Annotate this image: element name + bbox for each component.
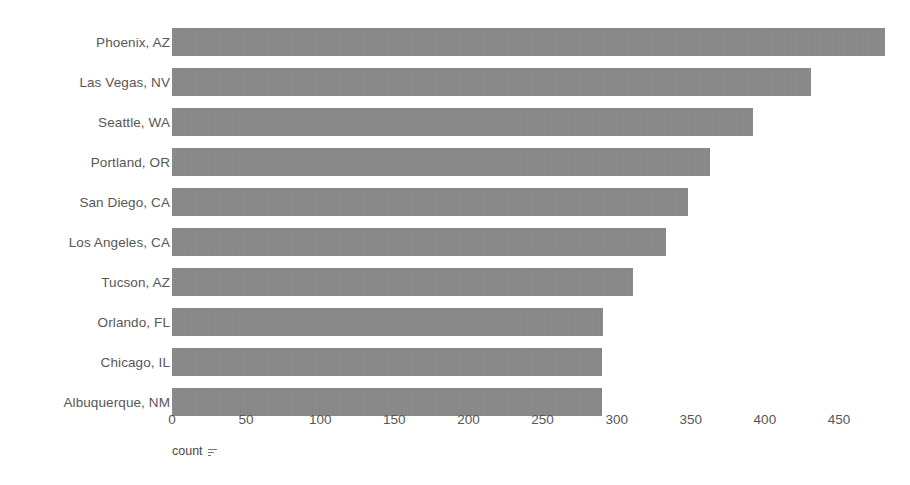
bar[interactable] [172, 28, 885, 56]
bar[interactable] [172, 228, 666, 256]
bar[interactable] [172, 108, 753, 136]
bar-row: Chicago, IL [0, 342, 910, 382]
category-label: Phoenix, AZ [0, 35, 170, 50]
x-axis-tick-label: 0 [168, 412, 176, 427]
bar-row: Los Angeles, CA [0, 222, 910, 262]
category-label: Chicago, IL [0, 355, 170, 370]
bar[interactable] [172, 148, 710, 176]
category-label: Tucson, AZ [0, 275, 170, 290]
x-axis-tick-label: 400 [754, 412, 777, 427]
bar-row: Seattle, WA [0, 102, 910, 142]
x-axis-tick-label: 100 [309, 412, 332, 427]
bar[interactable] [172, 348, 602, 376]
x-axis: 050100150200250300350400450 [0, 412, 910, 442]
bar[interactable] [172, 308, 603, 336]
category-label: Albuquerque, NM [0, 395, 170, 410]
bar[interactable] [172, 268, 633, 296]
x-axis-tick-label: 350 [680, 412, 703, 427]
category-label: Portland, OR [0, 155, 170, 170]
bar-row: Orlando, FL [0, 302, 910, 342]
sort-descending-icon [208, 448, 217, 457]
category-label: Las Vegas, NV [0, 75, 170, 90]
category-label: San Diego, CA [0, 195, 170, 210]
bar-row: San Diego, CA [0, 182, 910, 222]
x-axis-tick-label: 300 [605, 412, 628, 427]
category-label: Orlando, FL [0, 315, 170, 330]
bar[interactable] [172, 68, 811, 96]
category-label: Seattle, WA [0, 115, 170, 130]
x-axis-title: count [172, 444, 217, 458]
x-axis-tick-label: 450 [828, 412, 851, 427]
bar-chart: Phoenix, AZLas Vegas, NVSeattle, WAPortl… [0, 0, 910, 485]
x-axis-tick-label: 250 [531, 412, 554, 427]
bar-row: Portland, OR [0, 142, 910, 182]
x-axis-tick-label: 50 [239, 412, 254, 427]
x-axis-tick-label: 200 [457, 412, 480, 427]
category-label: Los Angeles, CA [0, 235, 170, 250]
bar-row: Phoenix, AZ [0, 22, 910, 62]
bar-row: Tucson, AZ [0, 262, 910, 302]
bar[interactable] [172, 188, 688, 216]
x-axis-title-label: count [172, 444, 203, 458]
x-axis-tick-label: 150 [383, 412, 406, 427]
bar-row: Las Vegas, NV [0, 62, 910, 102]
